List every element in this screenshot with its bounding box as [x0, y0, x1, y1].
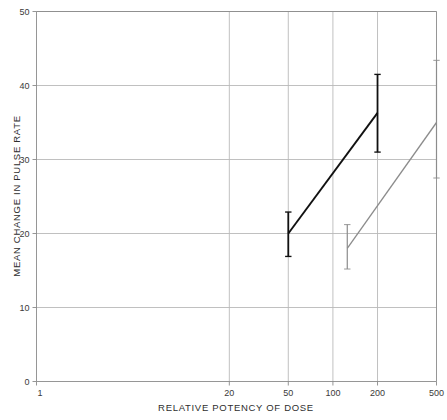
y-tick-label: 10 [19, 303, 29, 313]
x-axis-title: RELATIVE POTENCY OF DOSE [158, 402, 314, 413]
chart-background [0, 0, 447, 420]
chart-container: 01020304050 12050100200500 RELATIVE POTE… [0, 0, 447, 420]
x-tick-label: 20 [224, 388, 234, 398]
y-tick-label: 50 [19, 7, 29, 17]
x-tick-label: 200 [370, 388, 385, 398]
x-tick-label: 50 [283, 388, 293, 398]
x-tick-label: 500 [429, 388, 444, 398]
y-tick-label: 0 [24, 377, 29, 387]
y-tick-label: 40 [19, 81, 29, 91]
x-tick-label: 100 [325, 388, 340, 398]
y-axis-title: MEAN CHANGE IN PULSE RATE [11, 115, 22, 276]
pulse-rate-dose-response-chart: 01020304050 12050100200500 RELATIVE POTE… [0, 0, 447, 420]
x-tick-label: 1 [38, 388, 43, 398]
